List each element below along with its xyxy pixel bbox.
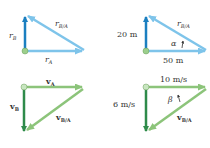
panel-velocity-numeric: 6 m/s 10 m/s vB/A β	[113, 75, 206, 131]
origin-dot	[143, 84, 149, 90]
label-ra: rA	[45, 55, 53, 65]
origin-dot	[21, 84, 27, 90]
relative-motion-diagram: rB rA rB/A 20 m 50 m rB/A α vB vA vB/A 6…	[0, 0, 210, 148]
label-vba: vB/A	[55, 112, 71, 123]
origin-dot	[22, 48, 28, 54]
label-va: vA	[45, 76, 55, 87]
panel-position-numeric: 20 m 50 m rB/A α	[117, 16, 206, 65]
origin-dot	[143, 48, 149, 54]
label-rba: rB/A	[55, 19, 68, 29]
angle-alpha-label: α	[171, 39, 177, 48]
label-vba-numeric: vB/A	[176, 112, 192, 123]
vector-vb-a-numeric	[149, 89, 206, 130]
panel-velocity-symbolic: vB vA vB/A	[9, 76, 83, 131]
angle-beta-arrow	[178, 95, 180, 102]
angle-alpha-arrow	[182, 41, 183, 48]
label-rba-numeric: rB/A	[177, 19, 190, 29]
label-10ms: 10 m/s	[160, 75, 187, 84]
label-vb: vB	[9, 101, 19, 112]
label-20m: 20 m	[117, 30, 138, 39]
vector-vb-a	[27, 89, 83, 130]
label-50m: 50 m	[163, 56, 184, 65]
label-6ms: 6 m/s	[113, 100, 135, 109]
angle-beta-label: β	[167, 95, 173, 104]
label-rb: rB	[9, 31, 17, 41]
panel-position-symbolic: rB rA rB/A	[9, 16, 84, 65]
